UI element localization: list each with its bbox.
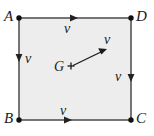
vertex-dot-a <box>16 15 21 20</box>
vertex-dot-d <box>128 15 133 20</box>
vertex-label-b: B <box>4 111 13 126</box>
vertex-label-a: A <box>4 9 13 24</box>
edge-velocity-label-ab: v <box>25 52 31 66</box>
vertex-label-c: C <box>136 111 146 126</box>
vertex-label-d: D <box>136 9 147 24</box>
vertex-dot-b <box>16 117 21 122</box>
centroid-label-g: G <box>54 60 64 74</box>
edge-velocity-label-bc: v <box>60 104 66 118</box>
velocity-square-diagram: A D B C v v v v G v <box>0 0 154 136</box>
vertex-dot-c <box>128 117 133 122</box>
diagram-canvas <box>0 0 154 136</box>
edge-velocity-label-dc: v <box>115 70 121 84</box>
edge-velocity-label-ad: v <box>64 22 70 36</box>
centroid-velocity-label: v <box>104 33 110 47</box>
